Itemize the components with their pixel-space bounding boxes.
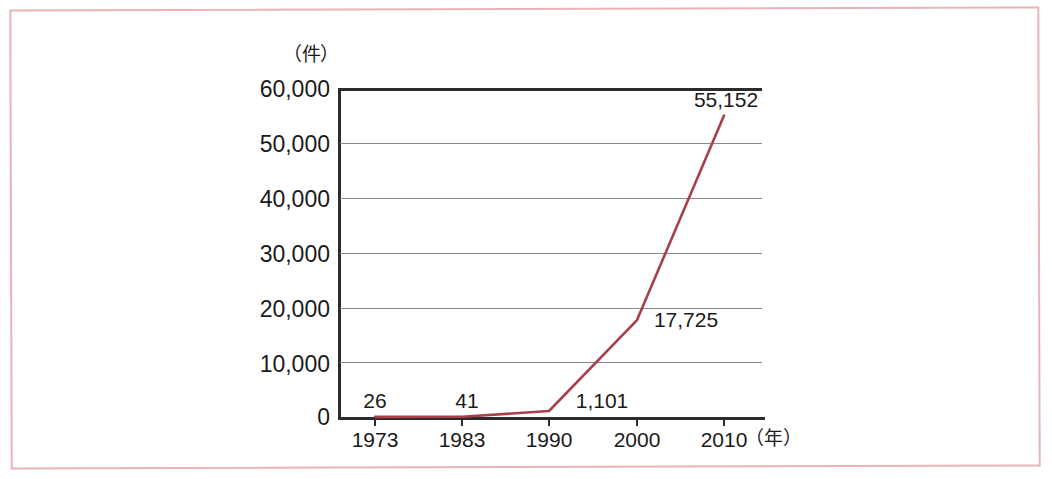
- gridline-10000: [340, 362, 762, 363]
- x-tick-1973: [374, 417, 376, 426]
- x-tick-label-1990: 1990: [526, 428, 573, 452]
- value-label-2010: 55,152: [694, 88, 758, 112]
- y-tick-label-50000: 50,000: [260, 131, 330, 158]
- x-tick-label-2000: 2000: [614, 428, 661, 452]
- x-tick-1983: [461, 417, 463, 426]
- y-tick-label-40000: 40,000: [260, 186, 330, 213]
- y-tick-label-20000: 20,000: [260, 296, 330, 323]
- x-axis-unit-label: （年）: [745, 423, 802, 450]
- value-label-1990: 1,101: [576, 389, 629, 413]
- value-label-2000: 17,725: [654, 308, 718, 332]
- plot-bottom-axis: [338, 417, 765, 420]
- y-axis-tick-labels: 60,000 50,000 40,000 30,000 20,000 10,00…: [240, 0, 330, 479]
- x-tick-1990: [548, 417, 550, 426]
- x-tick-label-1973: 1973: [352, 428, 399, 452]
- y-tick-label-30000: 30,000: [260, 241, 330, 268]
- y-tick-label-0: 0: [317, 404, 330, 431]
- y-tick-label-60000: 60,000: [260, 76, 330, 103]
- line-chart-figure: （件） 60,000 50,000 40,000 30,000 20,000 1…: [0, 0, 1052, 479]
- x-tick-2010: [723, 417, 725, 426]
- value-label-1983: 41: [455, 389, 478, 413]
- gridline-30000: [340, 253, 762, 254]
- value-label-1973: 26: [363, 389, 386, 413]
- y-tick-label-10000: 10,000: [260, 351, 330, 378]
- plot-area: [338, 88, 762, 417]
- x-tick-label-2010: 2010: [701, 428, 748, 452]
- gridline-40000: [340, 198, 762, 199]
- x-tick-2000: [636, 417, 638, 426]
- plot-left-axis: [338, 88, 341, 420]
- x-tick-label-1983: 1983: [439, 428, 486, 452]
- gridline-50000: [340, 143, 762, 144]
